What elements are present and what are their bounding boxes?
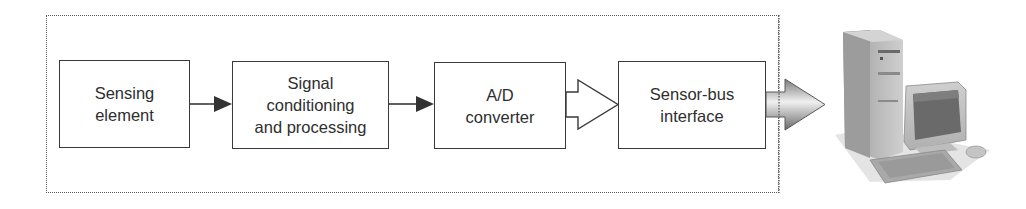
hollow-arrow-adc-to-bus xyxy=(566,80,618,129)
arrow-signal-to-adc xyxy=(389,96,434,112)
mouse-icon xyxy=(966,146,986,158)
arrow-sensing-to-signal xyxy=(190,96,232,112)
desktop-computer-icon xyxy=(835,30,990,183)
shaded-arrow-bus-to-computer xyxy=(766,15,825,193)
tower-icon xyxy=(843,30,903,160)
